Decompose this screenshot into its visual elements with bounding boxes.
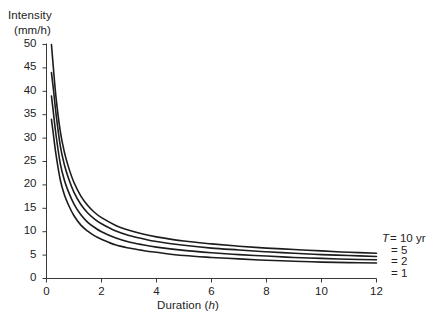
curve-T1: [51, 119, 376, 263]
legend-value: 5: [401, 244, 407, 256]
x-tick-label: 4: [142, 285, 172, 297]
y-tick-label: 10: [11, 224, 37, 236]
legend-item-T1: = 1: [382, 268, 426, 280]
curve-T10: [51, 45, 376, 254]
y-tick-label: 50: [11, 37, 37, 49]
curve-T2: [51, 96, 376, 260]
legend-equals: =: [391, 244, 401, 256]
x-tick-label: 2: [87, 285, 117, 297]
x-axis-title-text: Duration: [157, 299, 201, 311]
y-tick-label: 40: [11, 84, 37, 96]
curve-T5: [51, 73, 376, 257]
plot-area: [0, 0, 438, 325]
y-tick-label: 35: [11, 107, 37, 119]
curve-group: [51, 45, 376, 264]
legend-value: 10 yr: [400, 232, 426, 244]
x-tick-label: 10: [307, 285, 337, 297]
y-tick-label: 25: [11, 154, 37, 166]
y-tick-label: 5: [11, 248, 37, 260]
legend-symbol: T: [382, 232, 390, 244]
x-tick-label: 6: [197, 285, 227, 297]
chart-figure: Intensity (mm/h) 05101520253035404550 02…: [0, 0, 438, 325]
y-tick-label: 20: [11, 177, 37, 189]
legend-value: 1: [401, 267, 407, 279]
y-axis-title-line2: (mm/h): [8, 23, 52, 38]
y-axis-title: Intensity (mm/h): [8, 8, 52, 38]
legend-equals: =: [390, 232, 400, 244]
x-tick-label: 8: [252, 285, 282, 297]
legend-equals: =: [391, 267, 401, 279]
legend: T= 10 yr= 5= 2= 1: [382, 233, 426, 279]
x-tick-label: 0: [32, 285, 62, 297]
x-axis-title: Duration (h): [0, 299, 376, 311]
y-tick-label: 0: [11, 271, 37, 283]
legend-value: 2: [401, 255, 407, 267]
y-tick-label: 30: [11, 131, 37, 143]
y-tick-label: 45: [11, 60, 37, 72]
y-tick-label: 15: [11, 201, 37, 213]
x-axis-title-unit-paren: (h): [205, 299, 219, 311]
axes: [43, 44, 377, 283]
legend-equals: =: [391, 255, 401, 267]
y-axis-title-line1: Intensity: [8, 9, 52, 21]
x-tick-label: 12: [362, 285, 392, 297]
